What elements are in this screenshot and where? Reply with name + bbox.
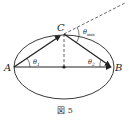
angle-arc-theta1 [27, 58, 30, 67]
angle-label-theta-min: θmin [83, 28, 95, 37]
angle-arc-theta-min [76, 27, 79, 43]
point-label-B: B [114, 62, 122, 73]
angle-label-theta2: θ2 [88, 58, 95, 67]
angle-label-theta1: θ1 [33, 58, 40, 67]
figure-caption: 図 5 [0, 104, 130, 115]
dashed-extension-line [64, 3, 125, 34]
point-label-C: C [57, 22, 65, 33]
angle-arc-theta2 [100, 60, 101, 67]
center-point [62, 65, 65, 68]
point-label-A: A [3, 62, 11, 73]
